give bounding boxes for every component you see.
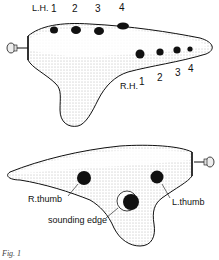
rh-number-4: 4	[188, 64, 194, 74]
left-thumb-hole	[151, 171, 164, 184]
lh-number-2: 2	[72, 4, 78, 14]
lh-hole-4	[117, 23, 129, 30]
left-hand-label: L.H.	[32, 4, 49, 13]
lh-hole-2	[71, 26, 81, 34]
lh-number-1: 1	[51, 4, 57, 14]
mouthpiece-icon	[194, 157, 214, 167]
lh-hole-3	[94, 27, 104, 35]
rh-number-3: 3	[175, 68, 181, 78]
right-thumb-hole	[77, 171, 91, 185]
lh-number-4: 4	[119, 3, 125, 13]
rh-hole-1	[136, 50, 145, 59]
figure-caption: Fig. 1	[2, 249, 21, 258]
rh-number-1: 1	[139, 77, 145, 87]
rh-hole-4	[187, 46, 192, 51]
rh-hole-3	[173, 46, 180, 53]
sounding-edge-label: sounding edge	[48, 216, 107, 225]
left-thumb-label: L.thumb	[172, 198, 205, 207]
right-hand-label: R.H.	[120, 82, 138, 91]
ocarina-diagram	[0, 0, 219, 260]
right-thumb-label: R.thumb	[28, 195, 62, 204]
lh-number-3: 3	[95, 4, 101, 14]
ocarina-top-view	[7, 23, 212, 127]
lh-hole-1	[50, 27, 58, 34]
rh-hole-2	[156, 48, 163, 55]
rh-number-2: 2	[157, 73, 163, 83]
mouthpiece-icon	[7, 43, 28, 53]
